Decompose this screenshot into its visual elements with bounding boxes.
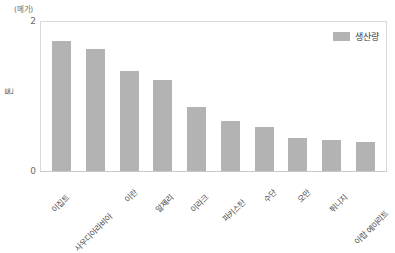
y-axis-title: 톤 — [2, 87, 14, 95]
x-axis-tick-label: 이란 — [131, 177, 149, 195]
x-axis-tick-label: 아랍 에미리트 — [382, 177, 395, 216]
bar[interactable] — [153, 80, 172, 171]
y-tick-label-2: 2 — [18, 17, 36, 26]
bar-slot — [45, 22, 79, 171]
bar[interactable] — [52, 41, 71, 171]
x-axis-tick-label: 이집트 — [63, 177, 85, 199]
bar[interactable] — [322, 140, 341, 171]
x-axis-tick-label: 오만 — [304, 177, 322, 195]
bar-slot — [79, 22, 113, 171]
bar-slot — [348, 22, 382, 171]
x-axis-tick-label: 튀니지 — [341, 177, 363, 199]
bar[interactable] — [255, 127, 274, 171]
bar-slot — [146, 22, 180, 171]
bar[interactable] — [187, 107, 206, 171]
x-axis-tick-label: 수단 — [270, 177, 288, 195]
bar[interactable] — [288, 138, 307, 171]
bar-slot — [281, 22, 315, 171]
y-tick-label-0: 0 — [18, 167, 36, 176]
bar-series — [41, 22, 386, 171]
bar[interactable] — [356, 142, 375, 171]
x-axis-labels: 이집트사우디아라비아이란알제리이라크파키스탄수단오만튀니지아랍 에미리트 — [40, 173, 387, 229]
bar[interactable] — [120, 71, 139, 171]
x-axis-tick-label: 파키스탄 — [239, 177, 266, 204]
bar-slot — [315, 22, 349, 171]
x-axis-baseline — [40, 171, 387, 172]
y-axis-unit-label: (메가) — [14, 3, 33, 14]
bar-slot — [112, 22, 146, 171]
bar-slot — [247, 22, 281, 171]
x-axis-tick-label: 이라크 — [202, 177, 224, 199]
x-axis-tick-label: 알제리 — [168, 177, 190, 199]
plot-area: 생산량 — [40, 21, 387, 172]
bar[interactable] — [221, 121, 240, 171]
bar-slot — [180, 22, 214, 171]
bar-slot — [214, 22, 248, 171]
bar[interactable] — [86, 49, 105, 171]
